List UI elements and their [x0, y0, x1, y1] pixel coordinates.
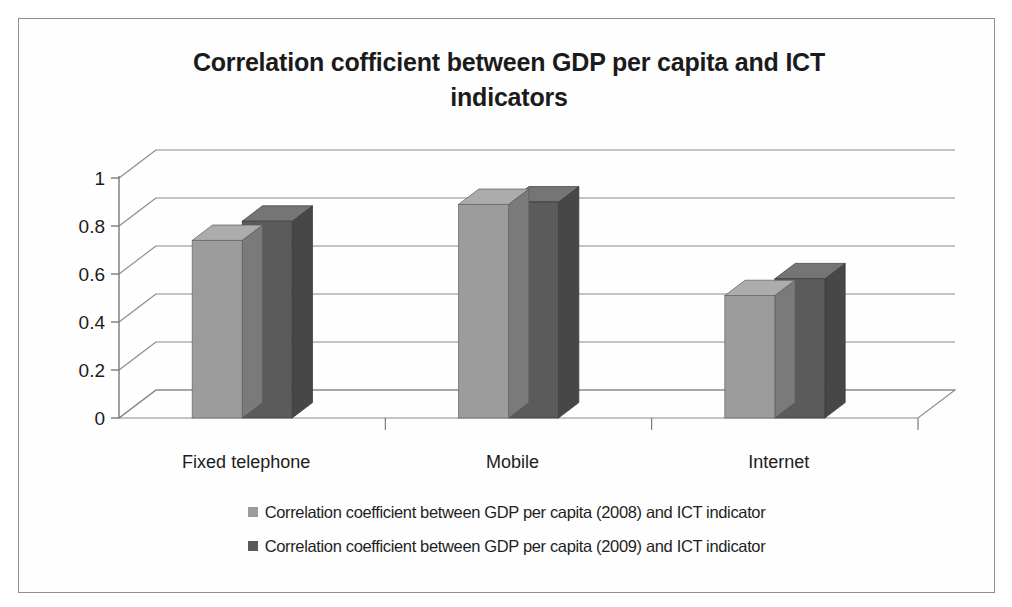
- y-axis-tick-label: 0.8: [79, 216, 105, 237]
- chart-legend: Correlation coefficient between GDP per …: [18, 495, 995, 563]
- legend-item: Correlation coefficient between GDP per …: [18, 529, 995, 563]
- legend-swatch-2008: [248, 507, 258, 517]
- bar-mobile-series-1: [459, 189, 529, 418]
- y-axis-tick-label: 1: [94, 168, 105, 189]
- legend-swatch-2009: [248, 541, 258, 551]
- legend-label-2008: Correlation coefficient between GDP per …: [265, 503, 766, 522]
- x-axis-category-label: Mobile: [486, 452, 539, 472]
- bar-internet-series-1: [725, 280, 795, 418]
- x-axis-category-label: Internet: [748, 452, 809, 472]
- legend-label-2009: Correlation coefficient between GDP per …: [265, 537, 766, 556]
- y-axis-tick-label: 0.6: [79, 264, 105, 285]
- bars-group: [192, 187, 845, 418]
- bar-fixed-telephone-series-1: [192, 225, 262, 418]
- y-axis-tick-label: 0: [94, 408, 105, 429]
- y-axis: [111, 176, 119, 418]
- y-axis-tick-label: 0.4: [79, 312, 106, 333]
- legend-item: Correlation coefficient between GDP per …: [18, 495, 995, 529]
- x-axis-category-label: Fixed telephone: [182, 452, 310, 472]
- x-axis-labels: Fixed telephoneMobileInternet: [182, 418, 918, 472]
- y-axis-labels: 00.20.40.60.81: [79, 168, 106, 429]
- y-axis-tick-label: 0.2: [79, 360, 105, 381]
